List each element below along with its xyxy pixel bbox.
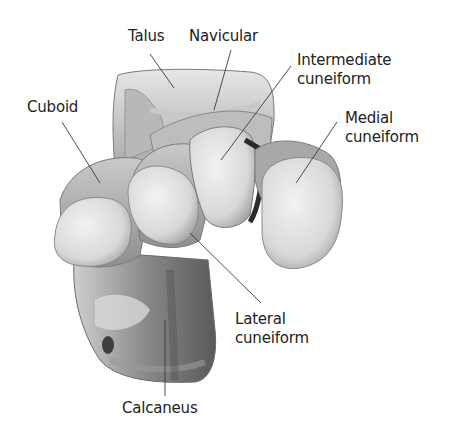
label-lateral-cuneiform: Lateral cuneiform — [235, 310, 309, 348]
label-medial-cuneiform: Medial cuneiform — [345, 109, 419, 147]
label-talus: Talus — [128, 27, 164, 46]
label-intermediate-cuneiform: Intermediate cuneiform — [297, 51, 391, 89]
label-navicular: Navicular — [189, 27, 258, 46]
anatomy-figure: Talus Navicular Intermediate cuneiform M… — [0, 0, 458, 446]
leader-talus — [150, 54, 174, 88]
leader-navicular — [214, 50, 231, 110]
label-cuboid: Cuboid — [27, 98, 78, 117]
leader-cuboid — [62, 122, 100, 183]
leader-medial-cuneiform — [296, 122, 337, 183]
label-calcaneus: Calcaneus — [122, 399, 198, 418]
leader-lateral-cuneiform — [190, 233, 261, 303]
leader-intermediate-cuneiform — [221, 66, 291, 160]
